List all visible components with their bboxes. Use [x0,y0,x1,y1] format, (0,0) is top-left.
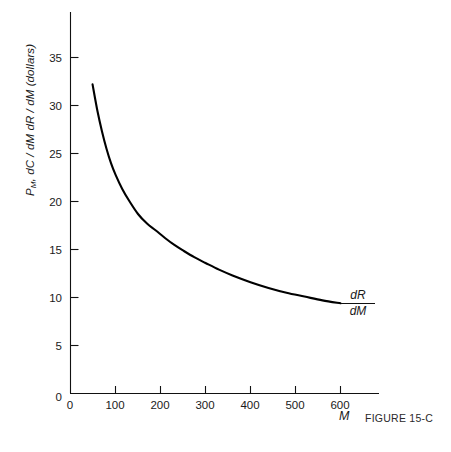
y-tick-label-10: 10 [49,292,62,304]
y-tick-label-0: 0 [56,391,62,403]
y-tick-label-35: 35 [49,52,62,64]
y-axis-title-p-subscript: M [29,181,38,188]
y-axis-title-p: P [24,188,36,196]
y-tick-label-5: 5 [56,340,62,352]
x-axis-ticks [116,386,341,394]
y-axis-title-rest: , dC / dM dR / dM (dollars) [24,44,36,182]
chart-plot-area: 35 30 25 20 15 10 5 0 0 100 200 300 400 … [0,0,451,452]
y-tick-label-15: 15 [49,244,62,256]
y-axis-ticks [71,58,79,346]
x-tick-label-200: 200 [150,399,169,411]
x-tick-label-400: 400 [240,399,259,411]
figure-caption: FIGURE 15-C [365,412,433,424]
curve-label-dr-dm: dR dM [341,289,375,317]
y-tick-label-20: 20 [49,196,62,208]
x-axis-title: M [339,409,349,423]
x-tick-label-500: 500 [285,399,304,411]
figure-15-c: 35 30 25 20 15 10 5 0 0 100 200 300 400 … [0,0,451,452]
curve-label-numerator: dR [341,289,375,304]
curve-dr-dm [93,84,341,303]
x-tick-label-100: 100 [105,399,124,411]
y-tick-label-25: 25 [49,148,62,160]
curve-label-denominator: dM [341,304,375,318]
x-tick-label-300: 300 [195,399,214,411]
y-axis-tick-labels: 35 30 25 20 15 10 5 0 [49,52,62,404]
x-tick-label-0: 0 [67,399,73,411]
y-tick-label-30: 30 [49,100,62,112]
x-axis-tick-labels: 0 100 200 300 400 500 600 [67,399,350,411]
